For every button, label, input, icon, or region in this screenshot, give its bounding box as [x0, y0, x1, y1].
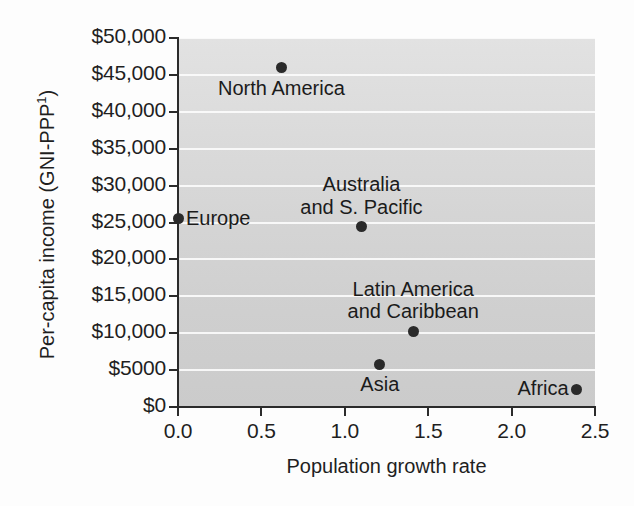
x-axis-tick [594, 407, 596, 416]
y-axis-tick [169, 295, 178, 297]
y-axis-tick [169, 369, 178, 371]
y-axis-title: Per-capita income (GNI-PPP1) [36, 60, 59, 390]
x-axis-tick-label: 1.5 [383, 419, 473, 443]
x-axis-tick [177, 407, 179, 416]
y-axis-tick [169, 37, 178, 39]
y-axis-title-base: Per-capita income (GNI-PPP [36, 104, 58, 360]
y-axis-tick-label: $5000 [6, 356, 166, 380]
y-axis-title-superscript: 1 [34, 96, 49, 103]
y-axis-tick-label: $0 [6, 393, 166, 417]
y-axis-tick-label: $35,000 [6, 135, 166, 159]
scatter-chart-figure: $0$5000$10,000$15,000$20,000$25,000$30,0… [0, 0, 634, 506]
x-axis-tick-label: 0.5 [216, 419, 306, 443]
x-axis-tick [427, 407, 429, 416]
data-point[interactable] [408, 326, 419, 337]
gridline [178, 38, 595, 39]
x-axis-tick-label: 2.0 [467, 419, 557, 443]
data-point[interactable] [374, 359, 385, 370]
x-axis-tick-label: 0.0 [133, 419, 223, 443]
gridline [178, 332, 595, 334]
gridline [178, 369, 595, 371]
data-point-label: Latin America and Caribbean [263, 278, 563, 323]
y-axis-title-close: ) [36, 90, 58, 97]
x-axis-tick [344, 407, 346, 416]
y-axis-tick-label: $50,000 [6, 24, 166, 48]
y-axis-tick [169, 258, 178, 260]
data-point-label: North America [131, 77, 431, 99]
y-axis-tick [169, 332, 178, 334]
y-axis-tick [169, 185, 178, 187]
y-axis-tick-label: $15,000 [6, 282, 166, 306]
x-axis-tick [511, 407, 513, 416]
x-axis-tick-label: 1.0 [300, 419, 390, 443]
data-point[interactable] [173, 213, 184, 224]
data-point-label: Africa [269, 377, 569, 399]
y-axis-tick-label: $20,000 [6, 245, 166, 269]
y-axis-tick-label: $40,000 [6, 98, 166, 122]
y-axis-tick-label: $25,000 [6, 209, 166, 233]
x-axis-title: Population growth rate [178, 455, 595, 478]
y-axis-tick-label: $10,000 [6, 319, 166, 343]
gridline [178, 148, 595, 150]
gridline [178, 111, 595, 113]
data-point[interactable] [571, 384, 582, 395]
x-axis-line [177, 406, 596, 408]
data-point-label: Australia and S. Pacific [211, 173, 511, 218]
x-axis-tick-label: 2.5 [550, 419, 634, 443]
y-axis-tick [169, 111, 178, 113]
y-axis-tick-label: $30,000 [6, 172, 166, 196]
x-axis-tick [260, 407, 262, 416]
data-point[interactable] [276, 62, 287, 73]
gridline [178, 258, 595, 260]
y-axis-tick [169, 148, 178, 150]
